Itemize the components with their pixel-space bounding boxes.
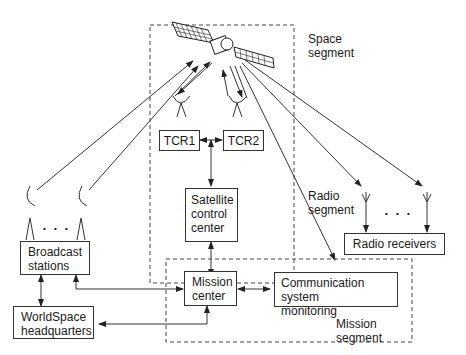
csm-line2: monitoring bbox=[281, 304, 391, 318]
radio-segment-line2: segment bbox=[308, 203, 354, 217]
tcr1-label: TCR1 bbox=[162, 134, 197, 148]
tcr2-label: TCR2 bbox=[226, 134, 261, 148]
radio-receivers-node: Radio receivers bbox=[344, 233, 445, 255]
scc-line2: control bbox=[191, 207, 232, 221]
mission-segment-line1: Mission bbox=[336, 317, 382, 331]
satellite-icon bbox=[172, 22, 274, 68]
tcr2-node: TCR2 bbox=[223, 130, 264, 151]
scc-line1: Satellite bbox=[191, 193, 232, 207]
broadcast-line1: Broadcast bbox=[28, 245, 82, 259]
broadcast-stations-node: Broadcast stations bbox=[20, 241, 90, 275]
space-segment-label: Space segment bbox=[308, 32, 354, 60]
space-segment-line1: Space bbox=[308, 32, 354, 46]
mission-segment-label: Mission segment bbox=[336, 317, 382, 345]
radio-segment-label: Radio segment bbox=[308, 189, 354, 217]
satellite-control-center-node: Satellite control center bbox=[185, 188, 238, 242]
mission-center-node: Mission center bbox=[184, 271, 237, 306]
mission-segment-line2: segment bbox=[336, 331, 382, 345]
worldspace-headquarters-node: WorldSpace headquarters bbox=[13, 306, 94, 339]
communication-system-monitoring-node: Communication system monitoring bbox=[274, 272, 398, 307]
radio-segment-line1: Radio bbox=[308, 189, 354, 203]
tcr1-node: TCR1 bbox=[159, 130, 200, 151]
broadcast-ellipsis: • • • bbox=[43, 224, 71, 233]
csm-line1: Communication system bbox=[281, 276, 391, 304]
hq-line1: WorldSpace bbox=[21, 310, 86, 324]
worldspace-diagram: Space segment Radio segment Mission segm… bbox=[0, 0, 466, 355]
mission-center-line2: center bbox=[192, 289, 229, 303]
radio-receivers-label: Radio receivers bbox=[347, 237, 442, 251]
tcr2-antenna-icon bbox=[229, 96, 247, 117]
space-segment-line2: segment bbox=[308, 46, 354, 60]
tcr1-antenna-icon bbox=[173, 96, 190, 117]
broadcast-line2: stations bbox=[28, 259, 82, 273]
mission-center-line1: Mission bbox=[192, 275, 229, 289]
radio-ellipsis: • • • bbox=[385, 209, 413, 218]
scc-line3: center bbox=[191, 221, 232, 235]
hq-line2: headquarters bbox=[21, 324, 86, 338]
